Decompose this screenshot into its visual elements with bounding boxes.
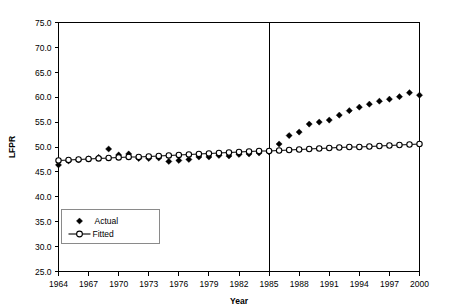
x-tick-label: 1976 xyxy=(169,279,188,289)
fitted-data-point xyxy=(256,148,261,153)
y-tick-label: 75.0 xyxy=(35,18,52,28)
fitted-data-point xyxy=(96,156,101,161)
x-tick-label: 2000 xyxy=(410,279,429,289)
actual-data-point xyxy=(286,132,292,138)
fitted-data-point xyxy=(106,155,111,160)
actual-data-point xyxy=(316,119,322,125)
x-tick-label: 1982 xyxy=(230,279,249,289)
fitted-data-point xyxy=(266,148,271,153)
actual-data-point xyxy=(346,108,352,114)
y-tick-label: 65.0 xyxy=(35,68,52,78)
fitted-data-point xyxy=(417,141,422,146)
fitted-data-point xyxy=(286,147,291,152)
fitted-data-point xyxy=(367,144,372,149)
fitted-data-point xyxy=(86,156,91,161)
x-tick-label: 1979 xyxy=(199,279,218,289)
fitted-data-point xyxy=(317,146,322,151)
y-tick-label: 70.0 xyxy=(35,43,52,53)
chart-container: 25.030.035.040.045.050.055.060.065.070.0… xyxy=(0,0,449,308)
lfpr-line-chart: 25.030.035.040.045.050.055.060.065.070.0… xyxy=(0,0,449,308)
y-tick-label: 60.0 xyxy=(35,92,52,102)
fitted-data-point xyxy=(156,153,161,158)
x-axis-title: Year xyxy=(230,296,249,306)
fitted-data-point xyxy=(407,142,412,147)
y-tick-label: 30.0 xyxy=(35,242,52,252)
actual-data-point xyxy=(296,129,302,135)
actual-data-point xyxy=(276,141,282,147)
actual-data-point xyxy=(166,158,172,164)
y-tick-label: 55.0 xyxy=(35,117,52,127)
fitted-data-point xyxy=(377,143,382,148)
y-tick-label: 35.0 xyxy=(35,217,52,227)
actual-data-point xyxy=(406,90,412,96)
actual-data-point xyxy=(376,98,382,104)
fitted-data-point xyxy=(236,149,241,154)
actual-data-point xyxy=(176,157,182,163)
x-tick-label: 1970 xyxy=(109,279,128,289)
actual-data-point xyxy=(306,121,312,127)
x-tick-label: 1997 xyxy=(380,279,399,289)
x-tick-label: 1967 xyxy=(79,279,98,289)
legend-label-actual: Actual xyxy=(95,216,119,226)
y-tick-label: 40.0 xyxy=(35,192,52,202)
fitted-data-point xyxy=(347,144,352,149)
fitted-data-point xyxy=(327,145,332,150)
fitted-data-point xyxy=(176,152,181,157)
fitted-data-point xyxy=(116,155,121,160)
legend-marker-fitted xyxy=(77,231,83,237)
x-tick-label: 1964 xyxy=(49,279,68,289)
y-axis-title: LFPR xyxy=(7,136,17,158)
fitted-data-point xyxy=(126,154,131,159)
x-tick-label: 1985 xyxy=(260,279,279,289)
actual-data-point xyxy=(336,112,342,118)
legend-label-fitted: Fitted xyxy=(93,229,115,239)
fitted-data-point xyxy=(66,157,71,162)
actual-data-point xyxy=(416,92,422,98)
actual-data-point xyxy=(396,94,402,100)
y-tick-label: 25.0 xyxy=(35,267,52,277)
y-tick-label: 50.0 xyxy=(35,142,52,152)
fitted-data-point xyxy=(306,146,311,151)
fitted-data-point xyxy=(357,144,362,149)
fitted-data-point xyxy=(76,157,81,162)
fitted-data-point xyxy=(136,154,141,159)
fitted-data-point xyxy=(216,150,221,155)
x-tick-label: 1973 xyxy=(139,279,158,289)
fitted-data-point xyxy=(337,145,342,150)
fitted-data-point xyxy=(397,142,402,147)
fitted-data-point xyxy=(226,150,231,155)
actual-data-point xyxy=(366,101,372,107)
fitted-data-point xyxy=(56,158,61,163)
x-tick-label: 1991 xyxy=(320,279,339,289)
fitted-data-point xyxy=(387,143,392,148)
x-tick-label: 1988 xyxy=(290,279,309,289)
actual-data-point xyxy=(326,117,332,123)
fitted-data-point xyxy=(296,147,301,152)
fitted-data-point xyxy=(146,154,151,159)
x-tick-label: 1994 xyxy=(350,279,369,289)
fitted-data-point xyxy=(166,153,171,158)
actual-data-point xyxy=(386,96,392,102)
fitted-data-point xyxy=(276,148,281,153)
actual-data-point xyxy=(356,104,362,110)
fitted-data-point xyxy=(206,151,211,156)
fitted-data-point xyxy=(186,152,191,157)
y-tick-label: 45.0 xyxy=(35,167,52,177)
fitted-data-point xyxy=(246,149,251,154)
actual-data-point xyxy=(106,146,112,152)
fitted-data-point xyxy=(196,151,201,156)
